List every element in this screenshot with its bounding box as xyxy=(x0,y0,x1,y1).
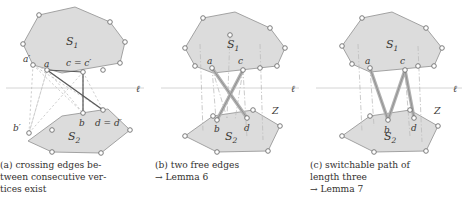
figure-root: S1 S2 a′ a c = c′ b d = d′ b′ ℓ (a) cros… xyxy=(0,0,470,217)
vertex-label-a: a xyxy=(207,56,212,66)
vertex-label-b-prime: b′ xyxy=(13,123,21,133)
region-s2 xyxy=(28,109,130,153)
caption-c: (c) switchable path of length three → Le… xyxy=(310,159,462,195)
label-ell: ℓ xyxy=(291,83,295,94)
vertex-label-c: c xyxy=(400,56,405,66)
label-z: Z xyxy=(271,105,279,116)
caption-a-line-1: (a) crossing edges be- xyxy=(0,159,145,171)
label-ell: ℓ xyxy=(453,83,457,94)
panel-c-diagram: S1 S2 a c b d ℓ Z xyxy=(310,0,470,158)
vertex-label-a-prime: a′ xyxy=(23,54,30,64)
caption-a-line-2: tween consecutive ver- xyxy=(0,171,145,183)
panel-b-diagram: S1 S2 a c b d ℓ Z xyxy=(155,0,305,158)
vertex-label-b: b xyxy=(214,124,220,134)
caption-b-line-1: (b) two free edges xyxy=(155,159,300,171)
caption-a-line-3: tices exist xyxy=(0,183,145,195)
panel-a: S1 S2 a′ a c = c′ b d = d′ b′ ℓ (a) cros… xyxy=(0,0,150,217)
vertex-label-a: a xyxy=(44,59,49,69)
caption-b-ref: → Lemma 6 xyxy=(155,171,300,183)
vertex-label-d-equals-d-prime: d = d′ xyxy=(95,118,122,128)
label-z: Z xyxy=(433,105,441,116)
panel-b: S1 S2 a c b d ℓ Z (b) two free edges → L… xyxy=(155,0,305,217)
vertex-label-d: d xyxy=(244,123,250,133)
caption-c-line-2: length three xyxy=(310,171,462,183)
caption-b: (b) two free edges → Lemma 6 xyxy=(155,159,300,183)
caption-a: (a) crossing edges be- tween consecutive… xyxy=(0,159,145,195)
panel-a-diagram: S1 S2 a′ a c = c′ b d = d′ b′ ℓ xyxy=(0,0,150,158)
panel-c: S1 S2 a c b d ℓ Z (c) switchable path of… xyxy=(310,0,470,217)
label-ell: ℓ xyxy=(136,83,140,94)
vertex-label-b: b xyxy=(79,118,85,128)
vertex-label-c-equals-c-prime: c = c′ xyxy=(66,58,91,68)
vertex-label-a: a xyxy=(365,56,370,66)
vertex-label-b: b xyxy=(384,125,390,135)
vertex-label-d: d xyxy=(411,123,417,133)
caption-c-ref: → Lemma 7 xyxy=(310,183,462,195)
caption-c-line-1: (c) switchable path of xyxy=(310,159,462,171)
solid-edges-group xyxy=(47,70,103,113)
region-s1 xyxy=(185,12,285,73)
vertex-label-c: c xyxy=(238,56,243,66)
